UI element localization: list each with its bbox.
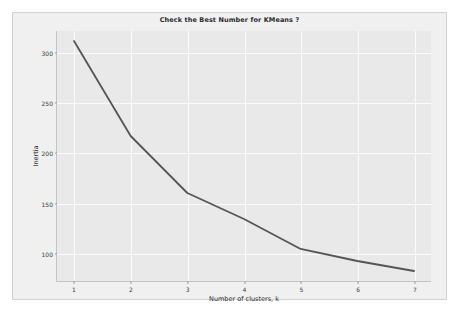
x-tick-label: 5 xyxy=(299,286,303,293)
inertia-line-series xyxy=(57,31,431,281)
x-tick-label: 4 xyxy=(243,286,247,293)
x-tick-label: 7 xyxy=(413,286,417,293)
chart-title: Check the Best Number for KMeans ? xyxy=(13,16,446,24)
y-tick-label: 200 xyxy=(42,150,53,157)
x-tick-mark xyxy=(187,281,188,284)
y-tick-label: 300 xyxy=(42,50,53,57)
x-tick-mark xyxy=(130,281,131,284)
x-tick-mark xyxy=(244,281,245,284)
x-tick-mark xyxy=(301,281,302,284)
y-axis-label: Inertia xyxy=(32,145,40,166)
x-tick-label: 6 xyxy=(356,286,360,293)
x-tick-mark xyxy=(358,281,359,284)
x-axis-label: Number of clusters, k xyxy=(57,295,431,303)
y-tick-label: 100 xyxy=(42,250,53,257)
y-tick-label: 150 xyxy=(42,200,53,207)
x-tick-label: 3 xyxy=(186,286,190,293)
y-tick-label: 250 xyxy=(42,100,53,107)
x-tick-label: 2 xyxy=(129,286,133,293)
elbow-curve xyxy=(74,41,414,271)
x-tick-mark xyxy=(74,281,75,284)
x-tick-label: 1 xyxy=(72,286,76,293)
figure-panel: Check the Best Number for KMeans ? Inert… xyxy=(12,12,447,300)
plot-area: 100150200250300 1234567 Number of cluste… xyxy=(56,31,431,282)
x-tick-mark xyxy=(414,281,415,284)
